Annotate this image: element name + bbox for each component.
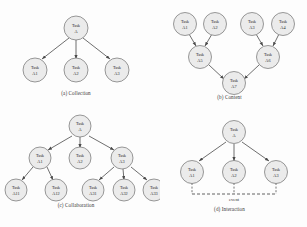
node-task-a4[interactable]: Task A4: [272, 13, 295, 36]
node-label-line2: A3: [273, 173, 278, 178]
node-label-line1: Task: [76, 153, 85, 158]
node-label-line2: A3: [119, 159, 124, 164]
node-task-a[interactable]: Task A: [69, 115, 91, 137]
edge-a-a3: [83, 38, 110, 59]
edge-a3-a31: [99, 167, 114, 180]
node-label-line2: A1: [189, 173, 194, 178]
panel-content: Task A1 Task A2 Task A3 Task A4: [152, 4, 307, 108]
task-structure-figure: Task A Task A1 Task A2 Task A3: [0, 0, 307, 227]
edge-a1-a11: [22, 167, 33, 180]
panel-interaction: event Task A Task A1 Task A2: [152, 110, 307, 222]
edge-a2-a5: [205, 34, 212, 46]
node-task-a[interactable]: Task A: [223, 121, 246, 144]
node-label-line1: Task: [113, 65, 122, 70]
panel-caption-content: (b) Content: [152, 94, 307, 100]
node-label-line1: Task: [52, 185, 61, 190]
node-task-a3[interactable]: Task A3: [111, 147, 133, 169]
node-label-line1: Task: [279, 19, 288, 24]
event-line-group: event: [192, 183, 276, 202]
edge-a3-a33: [131, 167, 147, 180]
node-label-line1: Task: [230, 127, 239, 132]
node-label-line2: A2: [77, 159, 82, 164]
node-task-a3[interactable]: Task A3: [241, 13, 264, 36]
node-label-line2: A5: [197, 58, 202, 63]
nodes-group: Task A Task A1 Task A2 Task A3: [5, 115, 160, 201]
edge-a1-a5: [189, 34, 196, 46]
node-task-a[interactable]: Task A: [64, 16, 88, 40]
nodes-group: Task A1 Task A2 Task A3 Task A4: [174, 13, 295, 95]
node-label-line2: A1: [182, 25, 187, 30]
node-label-line2: A3: [249, 25, 254, 30]
node-label-line2: A11: [12, 191, 19, 196]
node-label-line2: A1: [37, 159, 42, 164]
node-task-a6[interactable]: Task A6: [257, 46, 280, 69]
edge-a3-a32: [123, 169, 124, 180]
edge-a-a3: [242, 142, 269, 161]
edge-a4-a6: [273, 34, 279, 46]
node-task-a1[interactable]: Task A1: [181, 161, 204, 184]
node-task-a31[interactable]: Task A31: [82, 179, 104, 201]
event-label: event: [229, 197, 240, 202]
edge-a-a1: [48, 136, 72, 150]
panel-caption-interaction: (d) Interaction: [152, 206, 307, 212]
node-label-line1: Task: [248, 19, 257, 24]
panel-caption-collection: (a) Collection: [0, 90, 152, 96]
node-label-line1: Task: [181, 19, 190, 24]
panel-collection: Task A Task A1 Task A2 Task A3: [0, 4, 152, 108]
edge-a6-a7: [244, 65, 259, 79]
node-task-a2[interactable]: Task A2: [223, 161, 246, 184]
edge-a-a1: [199, 142, 226, 161]
edge-a-a1: [42, 38, 69, 59]
node-label-line1: Task: [230, 167, 239, 172]
node-label-line2: A1: [32, 71, 37, 76]
edge-a3-a6: [256, 34, 263, 46]
node-label-line1: Task: [12, 185, 21, 190]
node-label-line1: Task: [188, 167, 197, 172]
node-label-line2: A6: [265, 58, 271, 63]
node-label-line1: Task: [272, 167, 281, 172]
node-task-a1[interactable]: Task A1: [23, 58, 47, 82]
node-task-a5[interactable]: Task A5: [189, 46, 212, 69]
node-task-a1[interactable]: Task A1: [174, 13, 197, 36]
edges-group: [199, 142, 269, 161]
node-task-a2[interactable]: Task A2: [69, 147, 91, 169]
node-task-a2[interactable]: Task A2: [64, 58, 88, 82]
node-label-line2: A2: [212, 25, 217, 30]
node-label-line1: Task: [120, 185, 129, 190]
node-label-line2: A7: [231, 84, 237, 89]
node-label-line2: A12: [52, 191, 59, 196]
node-label-line1: Task: [196, 52, 205, 57]
node-label-line1: Task: [118, 153, 127, 158]
node-label-line1: Task: [72, 65, 81, 70]
panel-collaboration: Task A Task A1 Task A2 Task A3: [0, 110, 152, 222]
node-task-a1[interactable]: Task A1: [29, 147, 51, 169]
node-label-line1: Task: [76, 121, 85, 126]
edges-group: [42, 38, 110, 59]
node-label-line2: A2: [231, 173, 236, 178]
node-label-line1: Task: [211, 19, 220, 24]
node-label-line1: Task: [72, 23, 81, 28]
node-task-a12[interactable]: Task A12: [45, 179, 67, 201]
node-label-line2: A31: [89, 191, 96, 196]
node-label-line1: Task: [264, 52, 273, 57]
edge-a1-a12: [47, 167, 53, 180]
node-label-line1: Task: [36, 153, 45, 158]
node-label-line1: Task: [230, 78, 239, 83]
node-task-a11[interactable]: Task A11: [5, 179, 27, 201]
node-label-line1: Task: [89, 185, 98, 190]
node-label-line1: Task: [31, 65, 40, 70]
edge-a-a3: [89, 136, 114, 150]
node-label-line2: A32: [120, 191, 127, 196]
node-label-line2: A2: [73, 71, 78, 76]
panel-content-canvas: Task A1 Task A2 Task A3 Task A4: [152, 4, 307, 108]
node-task-a7[interactable]: Task A7: [223, 72, 246, 95]
node-task-a32[interactable]: Task A32: [113, 179, 135, 201]
node-label-line2: A4: [280, 25, 286, 30]
edge-a5-a7: [209, 65, 224, 79]
panel-caption-collaboration: (c) Collaboration: [0, 202, 152, 208]
node-task-a2[interactable]: Task A2: [204, 13, 227, 36]
node-task-a3[interactable]: Task A3: [105, 58, 129, 82]
node-task-a3[interactable]: Task A3: [265, 161, 288, 184]
node-label-line2: A3: [114, 71, 119, 76]
